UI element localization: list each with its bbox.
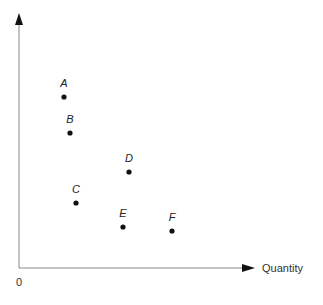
point-label-a: A — [60, 77, 67, 89]
x-axis-arrow-icon — [242, 264, 255, 272]
point-b — [67, 130, 72, 135]
origin-label: 0 — [16, 276, 22, 288]
point-c — [73, 200, 78, 205]
point-f — [169, 228, 174, 233]
x-axis-label: Quantity — [262, 262, 303, 274]
chart-canvas — [0, 0, 323, 305]
point-label-b: B — [66, 113, 73, 125]
point-e — [120, 224, 125, 229]
point-label-c: C — [72, 183, 80, 195]
point-label-e: E — [119, 207, 126, 219]
point-a — [61, 94, 66, 99]
y-axis-arrow-icon — [15, 13, 23, 25]
point-label-f: F — [169, 211, 176, 223]
point-d — [126, 169, 131, 174]
point-label-d: D — [125, 152, 133, 164]
